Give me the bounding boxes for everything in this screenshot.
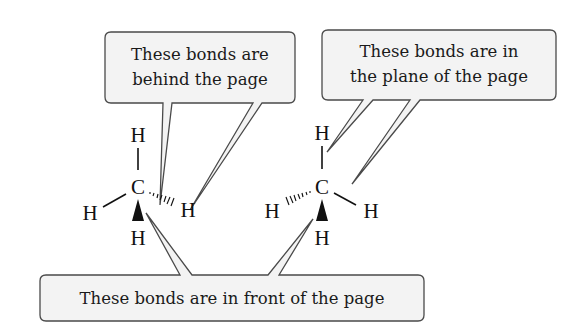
- callout-in-plane: These bonds are in the plane of the page: [322, 30, 556, 184]
- callout-in-front: These bonds are in front of the page: [40, 213, 424, 321]
- callout-plane-line1: These bonds are in: [360, 42, 519, 61]
- bond-right-plain: [334, 193, 356, 205]
- atom-h-top: H: [130, 123, 145, 147]
- bond-left-hashed: [286, 191, 310, 205]
- bond-bottom-wedge: [132, 199, 144, 221]
- atom-h-bottom: H: [314, 226, 329, 250]
- callout-behind-line2: behind the page: [132, 70, 268, 89]
- atom-h-right: H: [180, 198, 195, 222]
- atom-h-left: H: [82, 201, 97, 225]
- bond-left-plain: [103, 194, 126, 207]
- atom-carbon: C: [315, 175, 329, 199]
- bond-right-hashed: [150, 192, 174, 206]
- atom-h-left: H: [264, 199, 279, 223]
- callout-behind-line1: These bonds are: [131, 45, 269, 64]
- bond-bottom-wedge: [316, 199, 328, 221]
- atom-h-top: H: [314, 121, 329, 145]
- molecule-left: C H H H H: [82, 123, 195, 250]
- molecule-right: C H H H H: [264, 121, 378, 250]
- atom-h-bottom: H: [130, 226, 145, 250]
- methane-stereo-diagram: These bonds are behind the page These bo…: [0, 0, 584, 334]
- callout-front-label: These bonds are in front of the page: [80, 289, 385, 308]
- atom-h-right: H: [363, 199, 378, 223]
- atom-carbon: C: [131, 175, 145, 199]
- callout-plane-line2: the plane of the page: [350, 67, 528, 86]
